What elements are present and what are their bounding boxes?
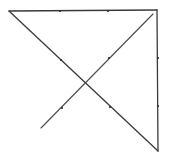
right-edge-tick-dot	[157, 57, 159, 59]
main-diagonal-tick-dot	[109, 106, 111, 108]
main-diagonal-tick-dot	[60, 59, 62, 61]
cross-diagonal-line	[41, 14, 153, 128]
cross-diagonal-tick-dot	[108, 57, 110, 59]
top-edge-tick-dot	[59, 10, 61, 12]
right-edge-line	[157, 10, 158, 151]
top-edge-tick-dot	[107, 10, 109, 12]
cross-diagonal-tick-dot	[61, 107, 63, 109]
geometric-diagram	[0, 0, 170, 161]
top-edge-line	[9, 10, 157, 11]
segment-group	[9, 10, 158, 151]
right-edge-tick-dot	[157, 105, 159, 107]
